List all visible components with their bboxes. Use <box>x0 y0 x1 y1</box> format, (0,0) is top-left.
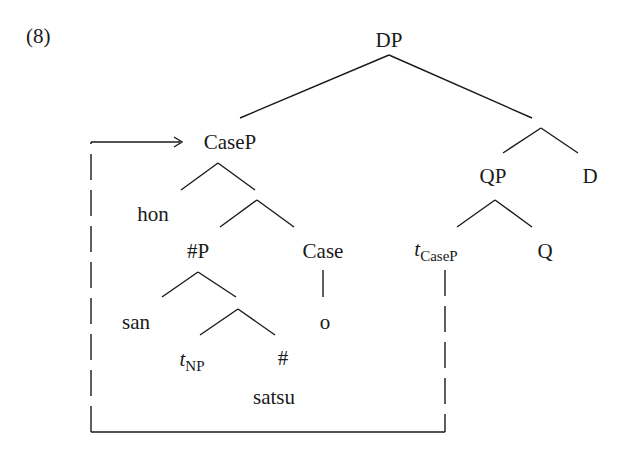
node-san: san <box>122 312 150 333</box>
branch-numbar-num <box>238 309 275 335</box>
node-nump: #P <box>187 241 209 262</box>
branch-nump-bar <box>198 272 236 297</box>
node-casep: CaseP <box>204 132 257 153</box>
branch-numbar-trace <box>200 309 238 335</box>
example-number: (8) <box>26 26 51 47</box>
branch-dp-dbar <box>389 55 532 118</box>
node-satsu: satsu <box>253 387 295 408</box>
branch-dbar-d <box>541 128 578 153</box>
branch-casep-hon <box>181 163 218 190</box>
branch-casebar-nump <box>220 200 257 227</box>
branch-nump-san <box>162 272 198 297</box>
node-q: Q <box>537 241 552 262</box>
branch-dbar-qp <box>503 128 541 153</box>
syntax-tree-lines <box>0 0 630 458</box>
node-trace-casep: tCaseP <box>414 239 457 264</box>
trace-subscript: CaseP <box>420 248 458 264</box>
branch-dp-casep <box>240 55 389 118</box>
node-num: # <box>278 348 289 369</box>
node-o: o <box>320 312 331 333</box>
trace-subscript: NP <box>185 358 204 374</box>
branch-casep-bar <box>218 163 255 190</box>
branch-casebar-case <box>257 200 294 227</box>
node-dp: DP <box>376 30 403 51</box>
node-d: D <box>582 166 597 187</box>
node-case: Case <box>303 241 344 262</box>
node-trace-np: tNP <box>179 349 204 374</box>
branch-qp-q <box>495 200 532 227</box>
branch-qp-trace <box>457 200 495 227</box>
node-qp: QP <box>480 166 507 187</box>
node-hon: hon <box>137 204 169 225</box>
